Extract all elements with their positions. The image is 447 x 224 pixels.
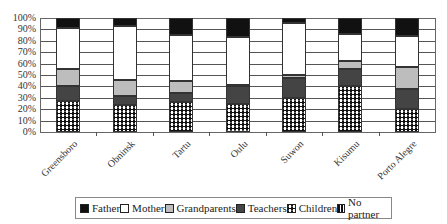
legend-item-grandparents: Grandparents <box>165 202 236 214</box>
y-tick-label: 20% <box>0 104 36 114</box>
legend-swatch-icon <box>80 204 89 213</box>
segment-mother <box>226 37 250 85</box>
y-tick-label: 30% <box>0 93 36 103</box>
segment-children <box>282 98 306 132</box>
legend-swatch-icon <box>337 204 345 213</box>
legend-swatch-icon <box>287 204 296 213</box>
x-tick-label: Oulu <box>228 138 250 160</box>
segment-father <box>113 18 137 26</box>
x-tick <box>379 132 380 136</box>
segment-mother <box>282 23 306 75</box>
segment-teachers <box>113 96 137 105</box>
bar-suwon <box>282 18 306 132</box>
legend-label: Teachers <box>248 202 287 214</box>
bar-oulu <box>226 18 250 132</box>
legend-item-teachers: Teachers <box>236 202 287 214</box>
segment-grandparents <box>282 75 306 78</box>
legend-label: Children <box>299 202 338 214</box>
segment-children <box>113 105 137 132</box>
segment-grandparents <box>113 80 137 96</box>
segment-father <box>338 18 362 34</box>
legend-label: Mother <box>132 202 164 214</box>
legend-item-father: Father <box>80 202 120 214</box>
segment-grandparents <box>56 69 80 86</box>
x-tick-label: Suwon <box>278 138 305 165</box>
bar-greensboro <box>56 18 80 132</box>
x-tick-label: Greensboro <box>39 138 80 179</box>
legend-item-children: Children <box>287 202 338 214</box>
y-tick-label: 100% <box>0 13 36 23</box>
bar-porto-alegre <box>395 18 419 132</box>
legend-label: No partner <box>348 196 387 220</box>
stacked-bar-chart: 0%10%20%30%40%50%60%70%80%90%100% Greens… <box>0 0 447 224</box>
x-tick <box>153 132 154 136</box>
segment-father <box>282 18 306 23</box>
legend-swatch-icon <box>165 204 174 213</box>
segment-teachers <box>282 78 306 97</box>
y-tick-label: 40% <box>0 81 36 91</box>
segment-children <box>169 102 193 132</box>
legend-label: Father <box>92 202 120 214</box>
legend-label: Grandparents <box>177 202 236 214</box>
segment-father <box>169 18 193 35</box>
bar-obninsk <box>113 18 137 132</box>
x-tick <box>322 132 323 136</box>
x-tick-label: Porto Alegre <box>375 138 419 182</box>
x-tick <box>209 132 210 136</box>
legend-swatch-icon <box>120 204 129 213</box>
x-tick-label: Kisumu <box>331 138 361 168</box>
x-tick-label: Tartu <box>170 138 193 161</box>
segment-mother <box>338 34 362 61</box>
segment-teachers <box>169 93 193 102</box>
y-tick-label: 90% <box>0 24 36 34</box>
x-tick <box>96 132 97 136</box>
segment-father <box>226 18 250 37</box>
bar-kisumu <box>338 18 362 132</box>
legend-swatch-icon <box>236 204 245 213</box>
segment-father <box>56 18 80 28</box>
bar-tartu <box>169 18 193 132</box>
segment-teachers <box>56 86 80 101</box>
y-tick-label: 70% <box>0 47 36 57</box>
segment-father <box>395 18 419 36</box>
x-tick-label: Obninsk <box>105 138 137 170</box>
segment-teachers <box>395 89 419 110</box>
segment-mother <box>113 26 137 80</box>
segment-grandparents <box>395 67 419 89</box>
y-tick-label: 10% <box>0 116 36 126</box>
segment-grandparents <box>169 81 193 94</box>
segment-mother <box>395 36 419 67</box>
y-tick-label: 0% <box>0 127 36 137</box>
segment-children <box>338 86 362 132</box>
segment-mother <box>169 35 193 81</box>
y-tick-label: 60% <box>0 59 36 69</box>
y-tick-label: 50% <box>0 70 36 80</box>
segment-teachers <box>226 86 250 103</box>
segment-children <box>395 109 419 132</box>
segment-grandparents <box>338 61 362 69</box>
segment-children <box>56 101 80 132</box>
legend-item-mother: Mother <box>120 202 164 214</box>
legend: FatherMotherGrandparentsTeachersChildren… <box>75 197 392 219</box>
y-tick-label: 80% <box>0 36 36 46</box>
x-tick <box>266 132 267 136</box>
legend-item-no-partner: No partner <box>337 196 387 220</box>
segment-teachers <box>338 69 362 86</box>
segment-mother <box>56 28 80 69</box>
segment-children <box>226 104 250 133</box>
